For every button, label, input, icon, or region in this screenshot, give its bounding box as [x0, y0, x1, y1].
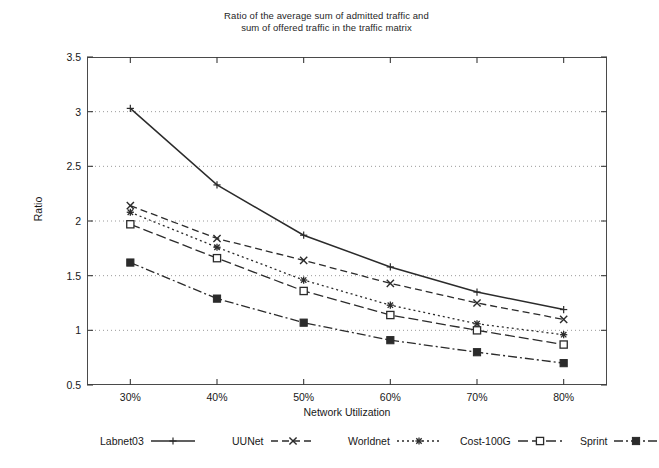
legend-item-labnet03[interactable]: Labnet03 — [100, 432, 196, 450]
legend-item-cost-100g[interactable]: Cost-100G — [460, 432, 563, 450]
x-tick-label: 80% — [534, 391, 594, 403]
legend-item-uunet[interactable]: UUNet — [232, 432, 316, 450]
series-worldnet — [127, 209, 568, 339]
chart-title-line-1: Ratio of the average sum of admitted tra… — [0, 10, 653, 22]
data-point — [127, 259, 134, 266]
data-point — [213, 295, 220, 302]
legend-line-sample — [613, 434, 659, 448]
series-sprint — [127, 259, 568, 367]
y-tick-label: 3.5 — [47, 51, 81, 63]
y-tick-label: 0.5 — [47, 379, 81, 391]
y-tick-label: 3 — [47, 106, 81, 118]
legend-sample-marker — [536, 437, 543, 444]
data-point — [560, 341, 567, 348]
y-tick-label: 1 — [47, 324, 81, 336]
legend-label: Sprint — [580, 435, 607, 447]
y-tick-label: 2 — [47, 215, 81, 227]
data-point — [127, 221, 134, 228]
x-axis-tick-labels: 30%40%50%60%70%80% — [87, 391, 607, 407]
series-cost-100g — [127, 221, 568, 348]
legend-line-sample — [517, 434, 563, 448]
legend-item-sprint[interactable]: Sprint — [580, 432, 659, 450]
series-line — [130, 263, 563, 364]
data-point — [300, 287, 307, 294]
legend-label: UUNet — [232, 435, 264, 447]
data-point — [473, 349, 480, 356]
legend-item-worldnet[interactable]: Worldnet — [348, 432, 442, 450]
x-tick-label: 50% — [274, 391, 334, 403]
x-tick-label: 70% — [447, 391, 507, 403]
data-point — [387, 337, 394, 344]
y-axis-tick-labels: 0.511.522.533.5 — [43, 57, 81, 385]
legend-label: Worldnet — [348, 435, 390, 447]
data-point — [300, 319, 307, 326]
legend-line-sample — [150, 434, 196, 448]
series-line — [130, 108, 563, 309]
series-labnet03 — [127, 105, 568, 313]
chart-legend: Labnet03UUNetWorldnetCost-100GSprint — [60, 432, 640, 452]
chart-title: Ratio of the average sum of admitted tra… — [0, 10, 653, 34]
data-point — [387, 311, 394, 318]
x-tick-label: 30% — [100, 391, 160, 403]
legend-sample-marker — [633, 437, 640, 444]
data-point — [213, 255, 220, 262]
legend-label: Cost-100G — [460, 435, 511, 447]
x-tick-label: 40% — [187, 391, 247, 403]
x-axis-title: Network Utilization — [87, 406, 607, 418]
gridlines — [87, 112, 607, 331]
legend-line-sample — [270, 434, 316, 448]
y-tick-label: 2.5 — [47, 160, 81, 172]
legend-label: Labnet03 — [100, 435, 144, 447]
x-tick-label: 60% — [360, 391, 420, 403]
chart-title-line-2: sum of offered traffic in the traffic ma… — [0, 22, 653, 34]
plot-canvas — [87, 57, 607, 385]
y-tick-label: 1.5 — [47, 270, 81, 282]
data-series-group — [127, 105, 568, 367]
data-point — [560, 360, 567, 367]
series-uunet — [127, 202, 568, 323]
legend-line-sample — [396, 434, 442, 448]
data-point — [473, 327, 480, 334]
